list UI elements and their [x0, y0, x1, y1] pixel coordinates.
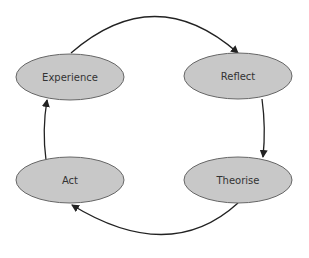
node-label: Reflect	[221, 71, 256, 82]
node-reflect: Reflect	[184, 53, 292, 99]
node-label: Theorise	[216, 175, 260, 186]
edge-reflect-to-theorise	[262, 99, 264, 157]
node-theorise: Theorise	[184, 157, 292, 203]
cycle-diagram: Experience Reflect Theorise Act	[0, 0, 309, 258]
edge-act-to-experience	[44, 100, 47, 160]
node-experience: Experience	[16, 54, 124, 100]
edge-experience-to-reflect	[71, 17, 238, 54]
node-act: Act	[16, 157, 124, 203]
node-label: Experience	[42, 72, 98, 83]
edge-theorise-to-act	[72, 203, 238, 235]
node-label: Act	[62, 175, 78, 186]
